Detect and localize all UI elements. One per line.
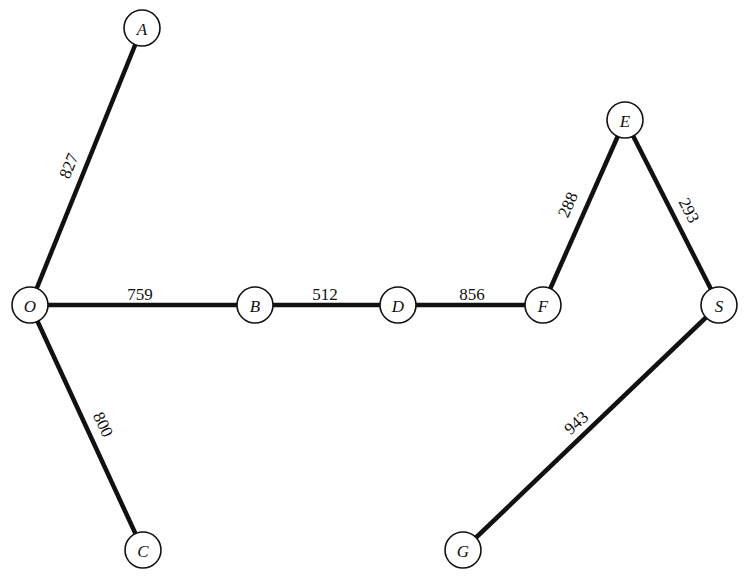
- node-label: G: [457, 542, 469, 561]
- node-a: A: [124, 10, 160, 46]
- node-o: O: [12, 287, 48, 323]
- node-label: E: [619, 112, 631, 131]
- node-e: E: [607, 102, 643, 138]
- node-s: S: [701, 287, 737, 323]
- node-label: D: [391, 297, 405, 316]
- edge-weight-label: 827: [55, 150, 82, 181]
- node-label: B: [250, 297, 261, 316]
- node-label: O: [24, 297, 36, 316]
- edge-e-s: [625, 120, 719, 305]
- node-label: S: [715, 297, 724, 316]
- node-f: F: [525, 287, 561, 323]
- node-label: F: [537, 297, 549, 316]
- edge-weight-label: 856: [459, 285, 485, 304]
- edge-o-a: [30, 28, 142, 305]
- edge-labels-layer: 827759512856288293800943: [55, 150, 703, 440]
- edge-weight-label: 759: [127, 285, 153, 304]
- edge-weight-label: 800: [89, 409, 117, 440]
- nodes-layer: AOBDFESCG: [12, 10, 737, 568]
- node-label: C: [137, 542, 149, 561]
- graph-diagram: 827759512856288293800943 AOBDFESCG: [0, 0, 746, 579]
- node-b: B: [237, 287, 273, 323]
- node-c: C: [125, 532, 161, 568]
- edge-weight-label: 512: [312, 285, 338, 304]
- edge-weight-label: 288: [554, 189, 582, 220]
- node-d: D: [380, 287, 416, 323]
- node-label: A: [136, 20, 148, 39]
- edge-s-g: [463, 305, 719, 550]
- node-g: G: [445, 532, 481, 568]
- edge-o-c: [30, 305, 143, 550]
